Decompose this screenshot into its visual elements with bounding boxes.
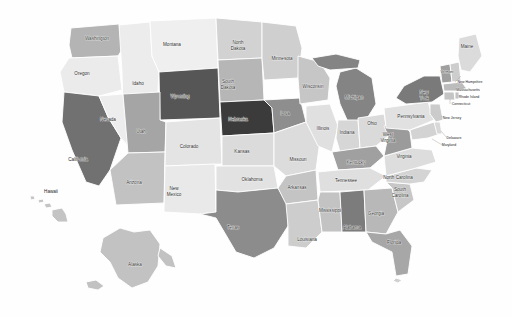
us-choropleth-map: WashingtonOregonCaliforniaNevadaIdahoMon… [0,0,512,317]
state-indiana[interactable] [336,120,360,152]
state-oklahoma[interactable] [216,166,278,192]
state-north-dakota[interactable] [216,18,262,60]
state-rhode-island[interactable] [455,92,459,99]
state-wyoming[interactable] [159,68,220,120]
state-minnesota[interactable] [262,22,302,80]
state-montana[interactable] [150,18,218,72]
state-new-hampshire[interactable] [450,62,461,82]
state-new-mexico[interactable] [164,164,216,214]
state-hawaii-island-1[interactable] [30,196,35,200]
map-svg-canvas: WashingtonOregonCaliforniaNevadaIdahoMon… [0,0,512,317]
state-nebraska[interactable] [220,100,274,136]
state-colorado[interactable] [165,118,222,166]
state-hawaii-island-4[interactable] [38,199,44,203]
state-kansas[interactable] [222,133,274,166]
state-south-dakota[interactable] [218,58,264,102]
state-alabama[interactable] [340,190,366,232]
state-connecticut[interactable] [444,92,455,100]
state-hawaii-island-2[interactable] [44,203,52,208]
state-washington[interactable] [69,24,123,58]
state-mississippi[interactable] [318,192,342,232]
state-massachusetts[interactable] [443,82,466,91]
state-utah[interactable] [123,92,166,153]
state-oregon[interactable] [60,56,122,96]
